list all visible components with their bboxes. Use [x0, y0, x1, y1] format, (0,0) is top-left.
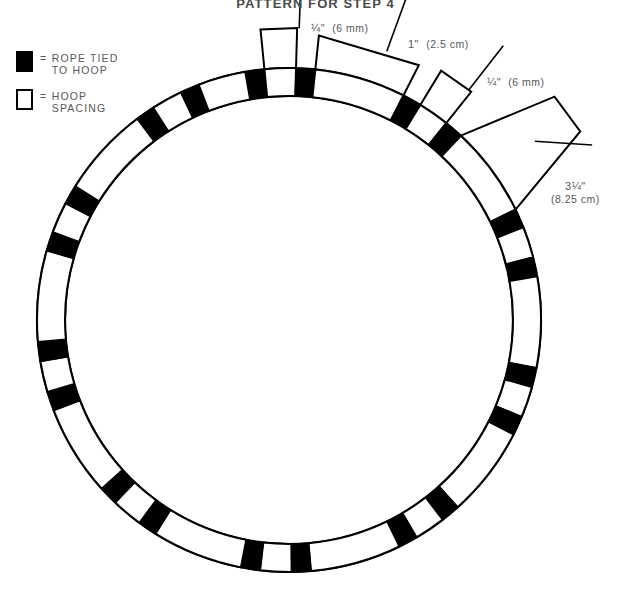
callout-imperial-value: ¼": [311, 22, 325, 34]
legend-equals-rope: =: [40, 52, 47, 64]
legend-equals-spacing: =: [40, 90, 47, 102]
hoop-inner-circle: [65, 96, 513, 544]
callout-imperial-value: ¼": [487, 76, 501, 88]
legend-item-rope: = ROPE TIED TO HOOP: [16, 50, 156, 77]
callout-metric-value: (6 mm): [508, 76, 544, 88]
callout-box-spacing-right-leader-line: [535, 141, 592, 145]
callout-box-rope-top: [261, 28, 298, 69]
legend-swatch-rope-icon: [16, 51, 33, 72]
legend: = ROPE TIED TO HOOP = HOOP SPACING: [16, 50, 156, 126]
callout-imperial-value: 1": [408, 38, 419, 50]
rope-tie-segment: [38, 340, 68, 362]
callout-imperial-value: 3¼": [565, 180, 586, 192]
hoop-spacing-segment: [260, 543, 292, 572]
pattern-diagram: PATTERN FOR STEP 4 = ROPE TIED TO HOOP =…: [0, 0, 631, 593]
callout-label-hoop-spacing-top: 1" (2.5 cm): [408, 38, 469, 51]
rope-tie-segment: [291, 543, 311, 572]
legend-label-rope: ROPE TIED TO HOOP: [52, 52, 119, 77]
legend-label-spacing: HOOP SPACING: [52, 90, 107, 115]
legend-item-spacing: = HOOP SPACING: [16, 88, 156, 115]
callout-metric-value: (8.25 cm): [551, 193, 600, 205]
page-title: PATTERN FOR STEP 4: [0, 0, 631, 11]
hoop-spacing-segment: [264, 68, 296, 97]
hoop-spacing-segment: [509, 276, 541, 368]
callout-metric-value: (6 mm): [332, 22, 368, 34]
callout-label-rope-width-right: ¼" (6 mm): [487, 76, 544, 89]
callout-label-hoop-spacing-right: 3¼"(8.25 cm): [551, 180, 600, 206]
callout-metric-value: (2.5 cm): [426, 38, 469, 50]
legend-swatch-spacing-icon: [16, 89, 33, 110]
callout-label-rope-width-top: ¼" (6 mm): [311, 22, 368, 35]
